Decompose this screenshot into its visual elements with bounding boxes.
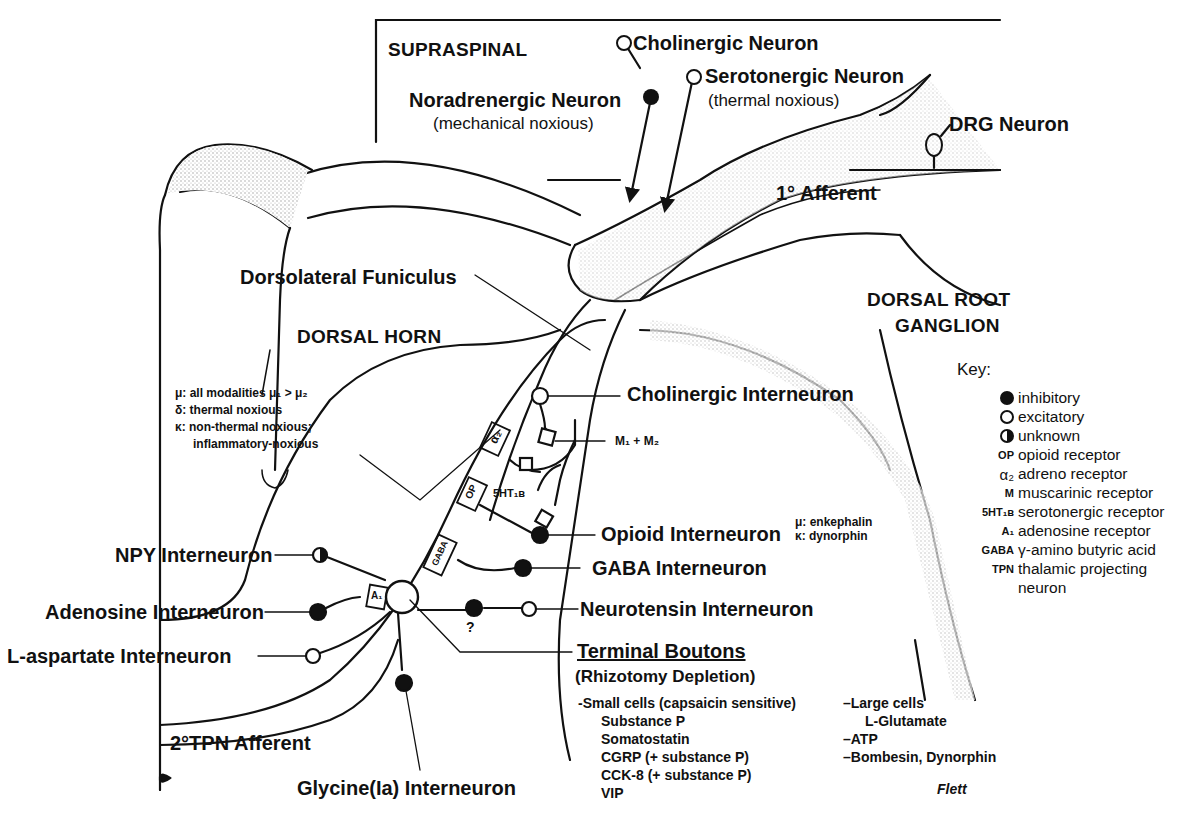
noradrenergic-neuron-label: Noradrenergic Neuron — [409, 90, 621, 110]
small-cell-item: Somatostatin — [578, 730, 796, 748]
small-cell-item: Substance P — [578, 712, 796, 730]
alpha2-symbol: α₂ — [940, 466, 1018, 483]
legend-item-tpn-cont: neuron — [940, 578, 1199, 598]
legend-item-opioid: OP opioid receptor — [940, 445, 1199, 465]
sht1b-receptor-label: 5HT₁ʙ — [493, 488, 525, 499]
receptor-a1-glyph: A₁ — [371, 591, 382, 601]
half-circle-icon — [1000, 429, 1014, 443]
supraspinal-label: SUPRASPINAL — [388, 40, 527, 59]
modality-mu: μ: all modalities μ₁ > μ₂ — [175, 385, 318, 402]
legend-item-inhibitory: inhibitory — [940, 388, 1199, 408]
l-aspartate-interneuron-soma — [306, 649, 320, 663]
terminal-boutons-subtitle: (Rhizotomy Depletion) — [575, 668, 755, 685]
dorsal-root-ganglion-line1: DORSAL ROOT — [867, 290, 1010, 309]
small-cells-heading: -Small cells (capsaicin sensitive) — [578, 694, 796, 712]
legend-item-adenosine: A₁ adenosine receptor — [940, 521, 1199, 541]
small-cells-list: -Small cells (capsaicin sensitive) Subst… — [578, 694, 796, 802]
legend-title: Key: — [957, 360, 991, 380]
primary-afferent-label: 1° Afferent — [776, 183, 877, 203]
serotonergic-neuron-soma — [687, 70, 701, 84]
npy-interneuron-label: NPY Interneuron — [115, 545, 272, 565]
cholinergic-interneuron-soma — [532, 388, 548, 404]
large-cell-item: –Bombesin, Dynorphin — [843, 748, 996, 766]
modality-kappa: κ: non-thermal noxious; — [175, 419, 318, 436]
sht1b-symbol: 5HT₁ʙ — [940, 506, 1018, 518]
large-cells-list: –Large cells L-Glutamate –ATP –Bombesin,… — [843, 694, 996, 766]
small-cell-item: CCK-8 (+ substance P) — [578, 766, 796, 784]
op-symbol: OP — [940, 449, 1018, 461]
small-cell-item: CGRP (+ substance P) — [578, 748, 796, 766]
legend-item-adreno: α₂ adreno receptor — [940, 464, 1199, 484]
dorsal-horn-label: DORSAL HORN — [297, 327, 441, 346]
large-cells-heading: –Large cells — [843, 694, 996, 712]
legend-item-tpn: TPN thalamic projecting — [940, 559, 1199, 579]
opioid-interneuron-soma — [532, 527, 548, 543]
noradrenergic-note: (mechanical noxious) — [433, 115, 594, 132]
open-circle-icon — [1000, 410, 1014, 424]
terminal-boutons-title: Terminal Boutons — [577, 641, 746, 661]
drg-neuron-label: DRG Neuron — [949, 114, 1069, 134]
large-cell-item: L-Glutamate — [843, 712, 996, 730]
muscarinic-label: M₁ + M₂ — [615, 435, 659, 447]
unknown-mark: ? — [466, 620, 475, 634]
cholinergic-neuron-label: Cholinergic Neuron — [633, 33, 819, 53]
opioid-mu: μ: enkephalin — [795, 515, 872, 529]
artist-signature: Flett — [937, 782, 967, 796]
large-cell-item: –ATP — [843, 730, 996, 748]
modality-delta: δ: thermal noxious — [175, 402, 318, 419]
serotonergic-neuron-label: Serotonergic Neuron — [705, 66, 904, 86]
m-symbol: M — [940, 487, 1018, 499]
modality-kappa-cont: inflammatory-noxious — [175, 436, 318, 453]
cholinergic-interneuron-label: Cholinergic Interneuron — [627, 384, 854, 404]
legend-item-gaba: GABA γ-amino butyric acid — [940, 540, 1199, 560]
unknown-inhibitory-soma — [466, 600, 482, 616]
secondary-afferent-label: 2°TPN Afferent — [170, 733, 311, 753]
opioid-modalities-list: μ: all modalities μ₁ > μ₂ δ: thermal nox… — [175, 385, 318, 453]
serotonergic-note: (thermal noxious) — [708, 92, 839, 109]
glycine-interneuron-soma — [396, 675, 412, 691]
legend-item-muscarinic: M muscarinic receptor — [940, 483, 1199, 503]
opioid-kappa: κ: dynorphin — [795, 529, 872, 543]
gaba-interneuron-label: GABA Interneuron — [592, 558, 767, 578]
tpn-soma — [386, 581, 418, 613]
gaba-symbol: GABA — [940, 544, 1018, 556]
legend-item-excitatory: excitatory — [940, 407, 1199, 427]
legend-item-serotonergic: 5HT₁ʙ serotonergic receptor — [940, 502, 1199, 522]
opioid-interneuron-label: Opioid Interneuron — [601, 524, 781, 544]
tpn-symbol: TPN — [940, 563, 1018, 575]
small-cell-item: VIP — [578, 784, 796, 802]
neurotensin-interneuron-soma — [522, 602, 536, 616]
noradrenergic-neuron-soma — [643, 89, 659, 105]
legend-item-unknown: unknown — [940, 426, 1199, 446]
opioid-subtypes: μ: enkephalin κ: dynorphin — [795, 515, 872, 543]
filled-circle-icon — [1000, 391, 1014, 405]
a1-symbol: A₁ — [940, 525, 1018, 537]
adenosine-interneuron-label: Adenosine Interneuron — [45, 602, 264, 622]
dorsal-root-ganglion-line2: GANGLION — [895, 316, 1000, 335]
dorsolateral-funiculus-label: Dorsolateral Funiculus — [240, 267, 457, 287]
adenosine-interneuron-soma — [310, 604, 326, 620]
gaba-interneuron-soma — [515, 560, 531, 576]
l-aspartate-interneuron-label: L-aspartate Interneuron — [7, 646, 231, 666]
glycine-interneuron-label: Glycine(Ia) Interneuron — [297, 778, 516, 798]
neurotensin-interneuron-label: Neurotensin Interneuron — [580, 599, 813, 619]
cholinergic-neuron-soma — [617, 36, 631, 50]
